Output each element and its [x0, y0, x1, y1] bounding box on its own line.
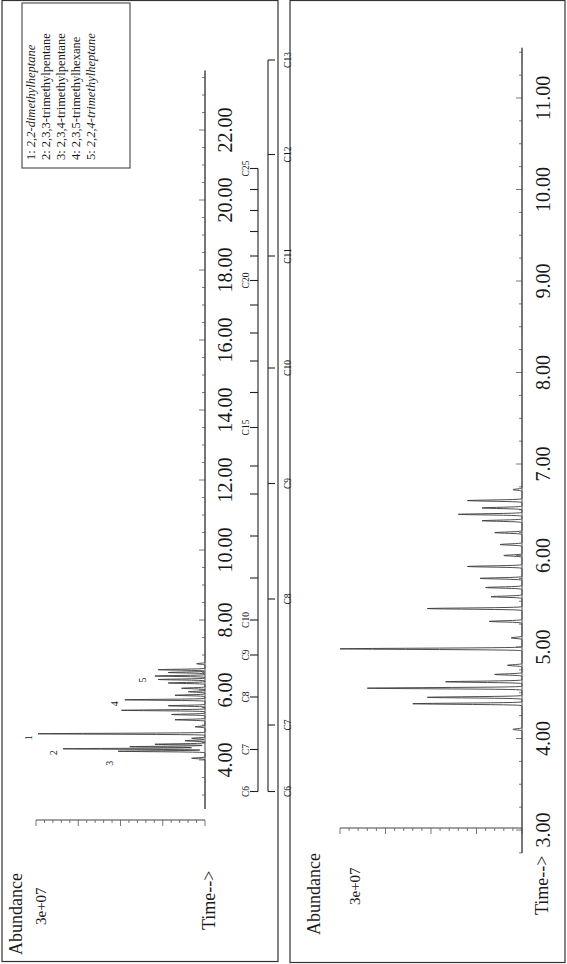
peak-label: 1	[23, 735, 34, 740]
time-tick-label: 5.00	[532, 630, 554, 665]
time-tick-label: 8.00	[214, 603, 236, 638]
lower-ladder-label: C11	[283, 248, 293, 264]
lower-chromatogram-panel: 3.004.005.006.007.008.009.0010.0011.00Ab…	[304, 48, 554, 935]
upper-ladder-label: C25	[241, 160, 251, 176]
lower-panel-frame	[290, 1, 565, 963]
time-axis-label: Time-->	[199, 871, 219, 931]
upper-ladder-label: C20	[241, 272, 251, 288]
time-tick-label: 18.00	[214, 248, 236, 293]
abundance-axis-label: Abundance	[304, 853, 324, 935]
time-tick-label: 7.00	[532, 447, 554, 482]
time-tick-label: 20.00	[214, 178, 236, 223]
time-tick-label: 6.00	[214, 673, 236, 708]
tic-trace	[340, 48, 522, 853]
lower-ladder-label: C12	[283, 146, 293, 162]
peak-label: 4	[109, 701, 120, 706]
chromatogram-figure: 4.006.008.0010.0012.0014.0016.0018.0020.…	[0, 0, 567, 964]
upper-ladder-label: C9	[241, 649, 251, 660]
time-tick-label: 22.00	[214, 108, 236, 153]
lower-ladder-label: C13	[283, 52, 293, 68]
carbon-ladder-strip: C6C7C8C9C10C15C20C25C6C7C8C9C10C11C12C13	[241, 52, 293, 797]
lower-ladder-label: C7	[283, 719, 293, 730]
legend-entry: 3: 2,3,4-trimethylpentane	[54, 33, 68, 160]
time-tick-label: 4.00	[532, 721, 554, 756]
peak-label: 3	[104, 761, 115, 766]
tic-trace	[38, 71, 205, 810]
legend-entry: 5: 2,2,4-trimethylheptane	[84, 33, 98, 160]
time-tick-label: 12.00	[214, 458, 236, 503]
lower-ladder-label: C10	[283, 360, 293, 376]
legend-entry: 1: 2,2-dimethylheptane	[24, 44, 38, 160]
upper-ladder-label: C15	[241, 419, 251, 435]
time-tick-label: 14.00	[214, 388, 236, 433]
peak-label: 2	[48, 750, 59, 755]
time-tick-label: 9.00	[532, 264, 554, 299]
time-tick-label: 11.00	[532, 76, 554, 120]
time-tick-label: 10.00	[214, 528, 236, 573]
time-tick-label: 6.00	[532, 538, 554, 573]
abundance-axis-label: Abundance	[6, 873, 26, 955]
abundance-scale-label: 3e+07	[347, 867, 363, 905]
peak-label: 5	[137, 678, 148, 683]
time-tick-label: 4.00	[214, 743, 236, 778]
figure-canvas: 4.006.008.0010.0012.0014.0016.0018.0020.…	[0, 0, 567, 964]
time-tick-label: 8.00	[532, 355, 554, 390]
lower-ladder-label: C6	[283, 786, 293, 797]
lower-ladder-label: C9	[283, 478, 293, 489]
upper-ladder-label: C10	[241, 612, 251, 628]
time-tick-label: 10.00	[532, 167, 554, 212]
upper-ladder-label: C6	[241, 786, 251, 797]
legend-entry: 2: 2,3,3-trimethylpentane	[39, 33, 53, 160]
time-axis-label: Time-->	[532, 856, 552, 916]
time-tick-label: 16.00	[214, 318, 236, 363]
upper-chromatogram-panel: 4.006.008.0010.0012.0014.0016.0018.0020.…	[6, 3, 236, 955]
upper-ladder-label: C7	[241, 744, 251, 755]
lower-ladder-label: C8	[283, 593, 293, 604]
upper-ladder-label: C8	[241, 691, 251, 702]
time-tick-label: 3.00	[532, 813, 554, 848]
legend-entry: 4: 2,3,5-trimethylhexane	[69, 36, 83, 160]
compound-legend: 1: 2,2-dimethylheptane2: 2,3,3-trimethyl…	[22, 3, 130, 168]
abundance-scale-label: 3e+07	[33, 887, 49, 925]
